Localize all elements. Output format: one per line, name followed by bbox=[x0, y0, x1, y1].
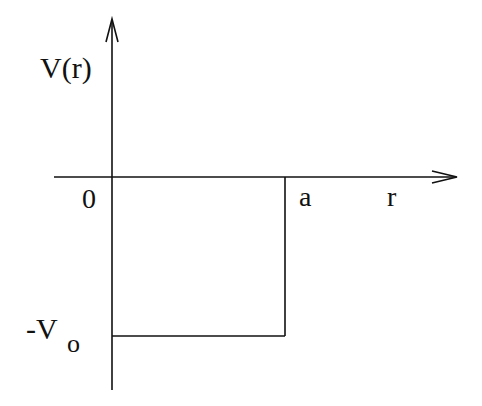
x-axis bbox=[54, 171, 457, 183]
potential-curve bbox=[112, 177, 285, 336]
potential-well-diagram: V(r) 0 a r -V o bbox=[0, 0, 482, 406]
x-axis-label: r bbox=[387, 181, 397, 212]
well-edge-label: a bbox=[299, 181, 312, 212]
y-axis bbox=[106, 19, 118, 390]
well-depth-subscript: o bbox=[67, 329, 80, 358]
well-depth-label: -V bbox=[26, 312, 58, 345]
y-axis-label: V(r) bbox=[40, 51, 92, 85]
origin-label: 0 bbox=[82, 183, 96, 214]
